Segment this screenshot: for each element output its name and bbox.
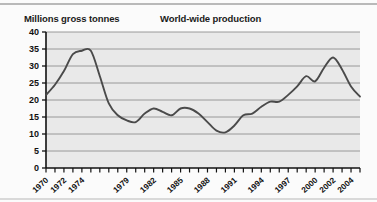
x-tick-label: 2002 — [318, 176, 338, 195]
y-tick-label: 20 — [29, 95, 39, 105]
plot-area: 0510152025303540 19701972197419791982198… — [0, 0, 377, 202]
y-tick-label: 30 — [29, 61, 39, 71]
chart-svg: 0510152025303540 19701972197419791982198… — [0, 0, 377, 202]
y-tick-label: 35 — [29, 44, 39, 54]
y-tick-label: 15 — [29, 112, 39, 122]
x-tick-label: 1982 — [138, 176, 158, 195]
x-tick-label: 1972 — [49, 176, 69, 195]
x-tick-label: 1997 — [273, 176, 293, 195]
x-axis-labels: 1970197219741979198219851988199119941997… — [31, 176, 356, 195]
x-tick-label: 1979 — [112, 176, 132, 195]
x-tick-label: 2004 — [336, 176, 356, 195]
x-tick-label: 1988 — [192, 176, 212, 195]
chart-figure: Millions gross tonnes World-wide product… — [0, 0, 377, 202]
x-tick-label: 2000 — [300, 176, 320, 195]
x-tick-label: 1970 — [31, 176, 51, 195]
x-tick-label: 1994 — [246, 176, 266, 195]
y-tick-label: 10 — [29, 129, 39, 139]
x-tick-label: 1974 — [67, 176, 87, 195]
y-tick-label: 0 — [34, 163, 39, 173]
x-tick-label: 1985 — [165, 176, 185, 195]
y-tick-label: 25 — [29, 78, 39, 88]
y-tick-label: 40 — [29, 27, 39, 37]
x-tick-label: 1991 — [219, 176, 239, 195]
y-tick-label: 5 — [34, 146, 39, 156]
y-axis-labels: 0510152025303540 — [29, 27, 39, 173]
